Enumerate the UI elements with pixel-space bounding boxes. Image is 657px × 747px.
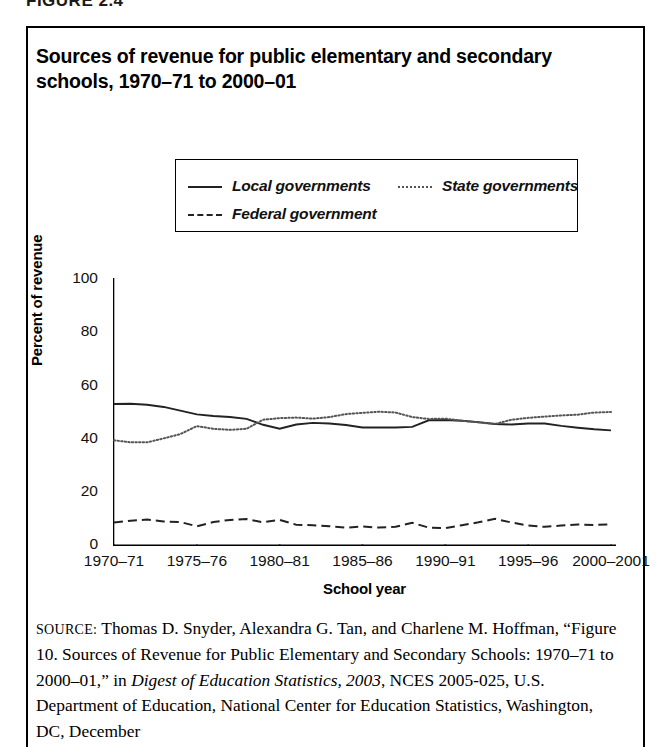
y-tick-label: 20 [52, 482, 98, 500]
plot-svg [113, 278, 616, 546]
y-tick-label: 80 [52, 322, 98, 340]
plot-area [113, 278, 616, 546]
x-tick-label: 1980–81 [249, 552, 309, 570]
source-italic-1: Digest of Education Statistics, 2003 [131, 670, 381, 690]
y-axis-ticks: 020406080100 [52, 262, 98, 546]
legend-label-local: Local governments [232, 177, 371, 195]
solid-line-icon [188, 181, 222, 191]
figure-page: FIGURE 2.4 Sources of revenue for public… [0, 0, 657, 747]
y-tick-label: 0 [52, 535, 98, 553]
legend-label-state: State governments [442, 177, 578, 195]
x-axis-label: School year [113, 580, 616, 597]
line-chart: Percent of revenue 020406080100 1970–711… [36, 262, 621, 562]
x-axis-ticks: 1970–711975–761980–811985–861990–911995–… [113, 552, 616, 572]
figure-title: Sources of revenue for public elementary… [36, 44, 606, 94]
series-line-federal [114, 519, 611, 528]
legend-item-state: State governments [398, 177, 578, 195]
x-tick-label: 1985–86 [332, 552, 392, 570]
x-tick-label: 1975–76 [167, 552, 227, 570]
y-axis-label: Percent of revenue [28, 235, 45, 366]
y-tick-label: 100 [52, 269, 98, 287]
legend-label-federal: Federal government [232, 205, 377, 223]
y-tick-label: 40 [52, 429, 98, 447]
dashed-line-icon [188, 209, 222, 219]
figure-caption: FIGURE 2.4 [26, 0, 124, 11]
y-tick-label: 60 [52, 376, 98, 394]
x-tick-label: 2000–2001 [572, 552, 650, 570]
legend-item-federal: Federal government [188, 205, 377, 223]
x-tick-label: 1990–91 [415, 552, 475, 570]
dotted-line-icon [398, 181, 432, 191]
x-tick-label: 1970–71 [84, 552, 144, 570]
chart-legend: Local governments State governments Fede… [175, 159, 578, 232]
legend-item-local: Local governments [188, 177, 371, 195]
x-tick-label: 1995–96 [498, 552, 558, 570]
source-note: SOURCE: Thomas D. Snyder, Alexandra G. T… [36, 616, 618, 744]
source-prefix: SOURCE: [36, 622, 97, 637]
